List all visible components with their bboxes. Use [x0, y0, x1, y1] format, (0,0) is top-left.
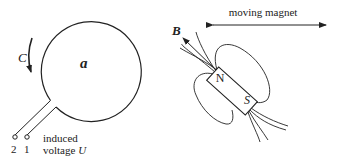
south-pole-label: S: [244, 93, 250, 107]
bar-magnet: [207, 67, 258, 115]
terminal-1-icon: [25, 135, 29, 139]
field-label: B: [171, 23, 181, 38]
terminal-2-icon: [13, 135, 17, 139]
induction-diagram: C a 2 1 induced voltage U moving magnet …: [0, 0, 340, 161]
voltage-label-line1: induced: [43, 132, 78, 144]
voltage-label-line2: voltage U: [43, 144, 87, 156]
terminal-2-label: 2: [11, 143, 17, 155]
circulation-label: C: [18, 50, 27, 65]
north-pole-label: N: [216, 71, 225, 85]
terminal-1-label: 1: [24, 143, 30, 155]
circulation-arrow-icon: [29, 38, 32, 72]
motion-label: moving magnet: [229, 6, 298, 18]
loop-label: a: [80, 55, 88, 71]
